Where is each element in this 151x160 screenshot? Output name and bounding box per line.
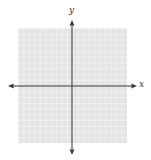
y-axis-label: y: [69, 6, 74, 15]
x-axis-label: x: [139, 80, 144, 89]
coordinate-plane: y x: [0, 0, 151, 160]
graph-svg: [0, 0, 151, 160]
